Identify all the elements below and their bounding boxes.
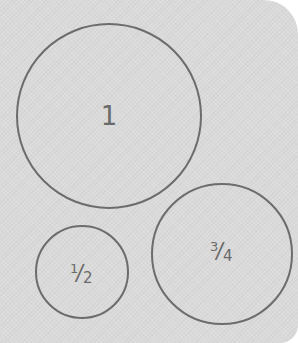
circle-half: 1 / 2	[35, 225, 129, 319]
circle-three-quarters: 3 / 4	[151, 183, 293, 325]
diagram-canvas: 1 1 / 2 3 / 4	[0, 0, 298, 343]
circle-one: 1	[16, 23, 202, 209]
circle-three-quarters-denominator: 4	[223, 249, 233, 264]
circle-three-quarters-label: 3 / 4	[210, 241, 234, 265]
circle-one-label: 1	[101, 103, 118, 129]
circle-half-label: 1 / 2	[70, 263, 94, 287]
circle-half-denominator: 2	[83, 271, 93, 286]
